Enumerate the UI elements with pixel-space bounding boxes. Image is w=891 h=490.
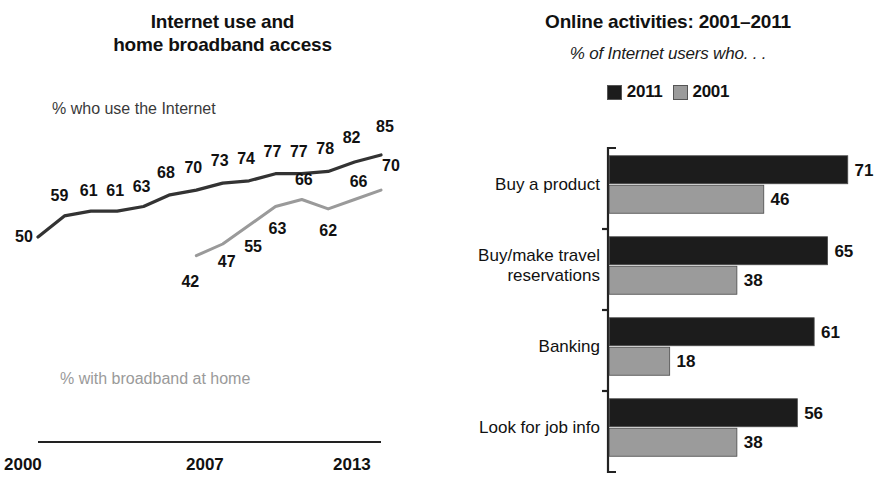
- x-axis-tick-2007: 2007: [186, 455, 224, 475]
- bar-category-label: Buy a product: [495, 175, 600, 195]
- line-point-label: 61: [106, 182, 124, 200]
- bar-category-label-line: Banking: [539, 337, 600, 357]
- bar-2011-3: [609, 399, 797, 427]
- line-point-label: 68: [157, 164, 175, 182]
- bar-2011-2: [609, 318, 814, 346]
- x-axis-tick-2013: 2013: [333, 455, 371, 475]
- bar-2001-2: [609, 347, 669, 375]
- line-point-label: 63: [133, 178, 151, 196]
- line-point-label: 73: [211, 152, 229, 170]
- line-point-label: 42: [181, 273, 199, 291]
- bar-chart-plot: Buy a productBuy/make travelreservations…: [445, 0, 891, 490]
- bar-value-label: 38: [744, 433, 763, 453]
- line-point-label: 70: [382, 157, 400, 175]
- bar-value-label: 65: [834, 242, 853, 262]
- line-point-label: 70: [184, 159, 202, 177]
- x-axis-tick-2000: 2000: [4, 455, 42, 475]
- line-point-label: 77: [264, 143, 282, 161]
- line-point-label: 85: [376, 118, 394, 136]
- bar-2001-0: [609, 185, 764, 213]
- bar-chart-panel: Online activities: 2001–2011 % of Intern…: [445, 0, 891, 490]
- bar-2001-3: [609, 428, 737, 456]
- line-chart-plot: [0, 0, 445, 490]
- bar-value-label: 18: [676, 352, 695, 372]
- bar-category-label: Banking: [539, 337, 600, 357]
- bar-category-label: Buy/make travelreservations: [478, 246, 600, 286]
- line-point-label: 74: [237, 150, 255, 168]
- line-point-label: 50: [15, 228, 33, 246]
- bar-value-label: 56: [804, 404, 823, 424]
- bar-category-label: Look for job info: [479, 418, 600, 438]
- line-point-label: 61: [80, 182, 98, 200]
- bar-2011-0: [609, 156, 848, 184]
- bar-value-label: 46: [771, 190, 790, 210]
- bar-2011-1: [609, 237, 827, 265]
- line-point-label: 82: [343, 129, 361, 147]
- line-point-label: 63: [269, 220, 287, 238]
- line-point-label: 59: [50, 187, 68, 205]
- bar-2001-1: [609, 266, 737, 294]
- bar-category-label-line: reservations: [478, 266, 600, 286]
- line-point-label: 66: [295, 171, 313, 189]
- bar-value-label: 71: [855, 161, 874, 181]
- broadband-trend-line: [196, 190, 381, 256]
- line-point-label: 47: [218, 253, 236, 271]
- bar-category-label-line: Look for job info: [479, 418, 600, 438]
- line-point-label: 77: [290, 143, 308, 161]
- line-point-label: 66: [350, 173, 368, 191]
- line-chart-panel: Internet use and home broadband access %…: [0, 0, 445, 490]
- bar-category-label-line: Buy/make travel: [478, 246, 600, 266]
- bar-value-label: 38: [744, 271, 763, 291]
- line-point-label: 78: [316, 140, 334, 158]
- line-point-label: 62: [319, 222, 337, 240]
- bar-value-label: 61: [821, 323, 840, 343]
- line-point-label: 55: [244, 238, 262, 256]
- bar-category-label-line: Buy a product: [495, 175, 600, 195]
